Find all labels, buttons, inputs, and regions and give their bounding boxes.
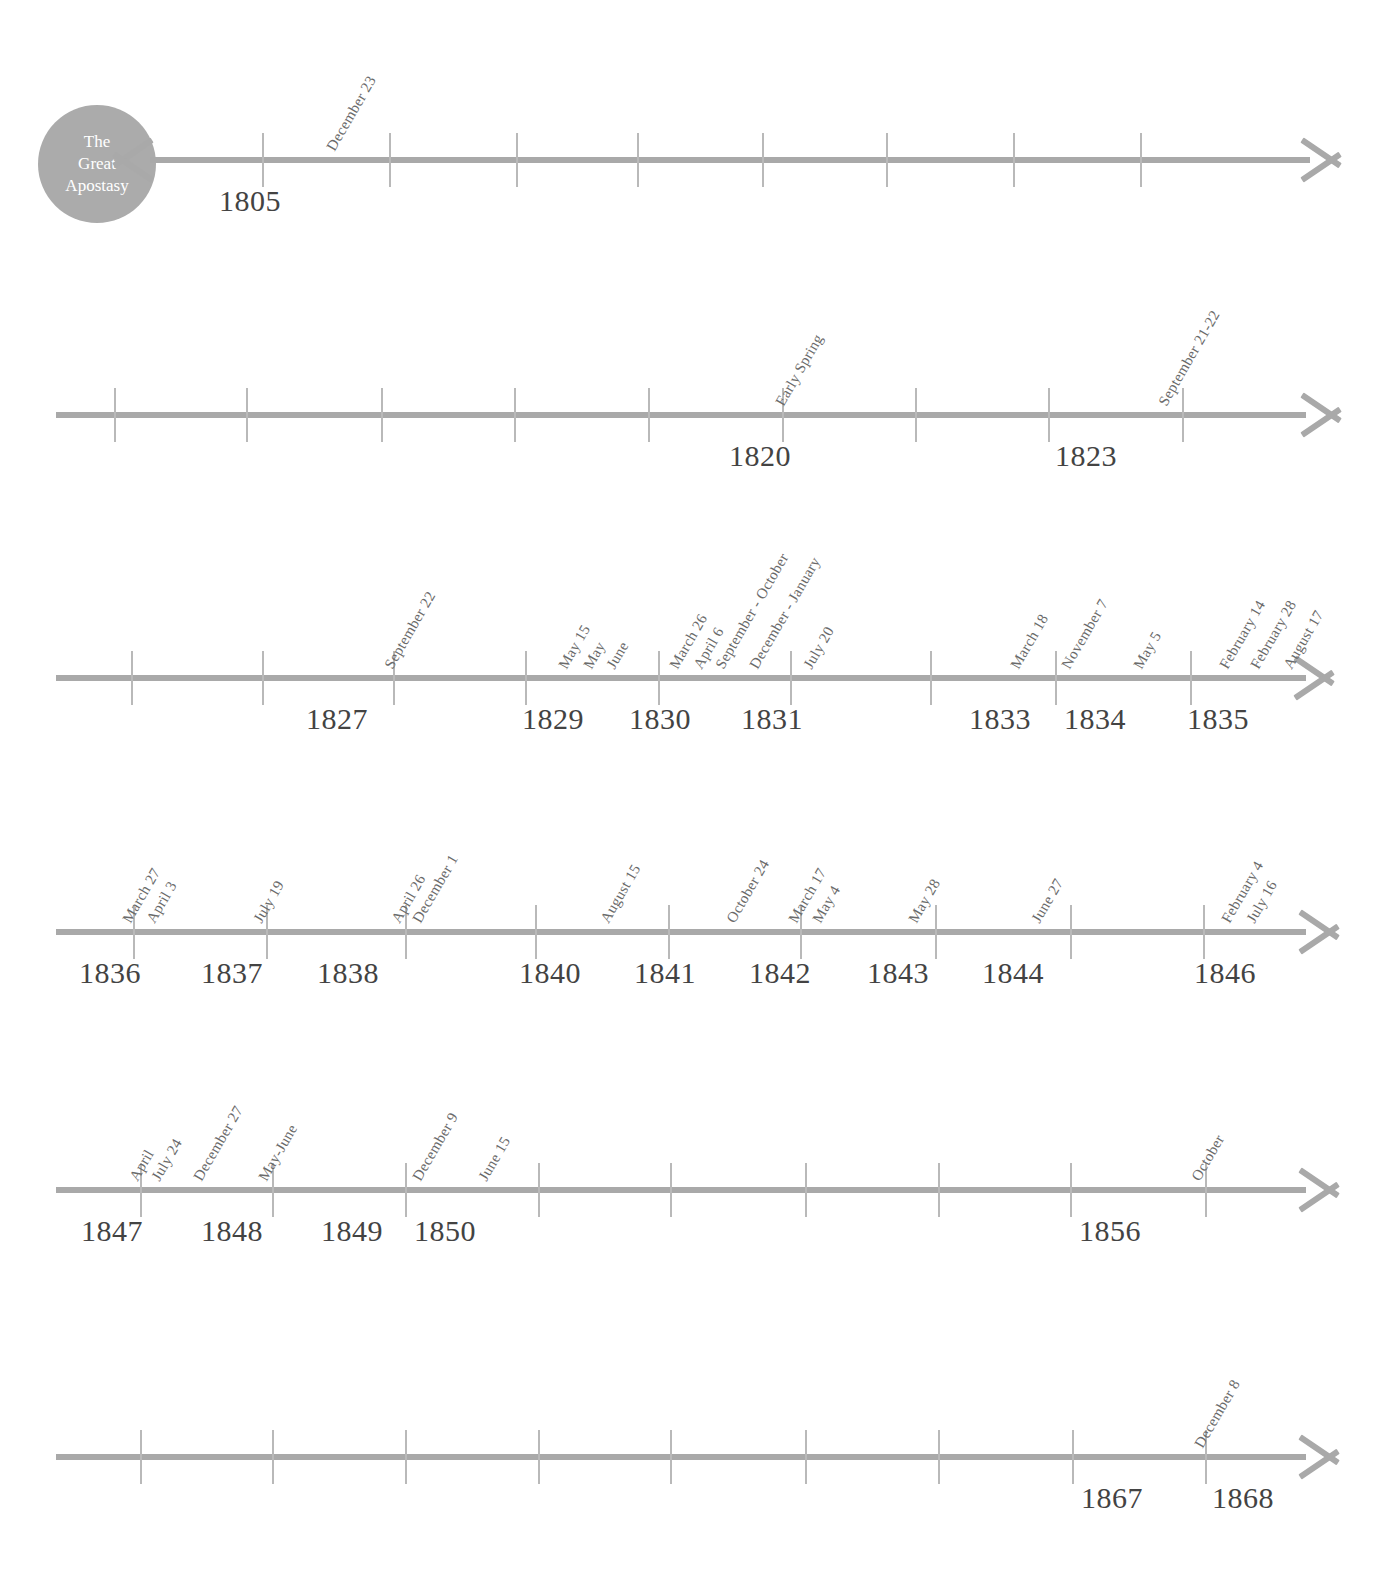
year-label: 1831 — [741, 702, 803, 736]
timeline-axis-line — [150, 157, 1310, 163]
timeline-axis-line — [56, 929, 1306, 935]
arrow-right-icon — [1302, 129, 1346, 191]
timeline-tick — [1070, 905, 1072, 959]
timeline-tick — [114, 388, 116, 442]
event-label: September 22 — [381, 589, 439, 672]
timeline-tick — [514, 388, 516, 442]
timeline-tick — [538, 1163, 540, 1217]
timeline-tick — [670, 1430, 672, 1484]
timeline-tick — [272, 1430, 274, 1484]
timeline-tick — [1070, 1163, 1072, 1217]
year-label: 1850 — [414, 1214, 476, 1248]
year-label: 1847 — [81, 1214, 143, 1248]
year-label: 1842 — [749, 956, 811, 990]
timeline-tick — [805, 1430, 807, 1484]
timeline-tick — [648, 388, 650, 442]
year-label: 1827 — [306, 702, 368, 736]
event-label: December 8 — [1191, 1377, 1244, 1451]
timeline-tick — [790, 651, 792, 705]
year-label: 1841 — [634, 956, 696, 990]
event-label: March 18 — [1007, 611, 1052, 672]
timeline-tick — [381, 388, 383, 442]
timeline-tick — [1182, 388, 1184, 442]
event-label: August 15 — [597, 861, 644, 926]
year-label: 1844 — [982, 956, 1044, 990]
year-label: 1805 — [219, 184, 281, 218]
timeline-tick — [935, 905, 937, 959]
arrow-right-icon — [1300, 901, 1344, 963]
timeline-tick — [668, 905, 670, 959]
timeline-tick — [516, 133, 518, 187]
arrow-right-icon — [1300, 1426, 1344, 1488]
year-label: 1846 — [1194, 956, 1256, 990]
timeline-tick — [1140, 133, 1142, 187]
year-label: 1843 — [867, 956, 929, 990]
event-label: September 21-22 — [1155, 307, 1223, 409]
timeline-tick — [915, 388, 917, 442]
timeline-tick — [246, 388, 248, 442]
timeline-tick — [389, 133, 391, 187]
event-label: July 19 — [250, 878, 288, 926]
year-label: 1820 — [729, 439, 791, 473]
event-label: Early Spring — [772, 331, 827, 409]
timeline-tick — [1048, 388, 1050, 442]
timeline-tick — [886, 133, 888, 187]
timeline-tick — [670, 1163, 672, 1217]
timeline-tick — [938, 1163, 940, 1217]
year-label: 1823 — [1055, 439, 1117, 473]
timeline-tick — [262, 651, 264, 705]
timeline-tick — [805, 1163, 807, 1217]
timeline-axis-line — [56, 675, 1306, 681]
event-label: December 27 — [190, 1103, 247, 1184]
timeline-axis-line — [56, 1187, 1306, 1193]
timeline-tick — [538, 1430, 540, 1484]
arrow-right-icon — [1302, 384, 1346, 446]
timeline-tick — [658, 651, 660, 705]
timeline-tick — [930, 651, 932, 705]
event-label: December 9 — [409, 1110, 462, 1184]
timeline-tick — [1013, 133, 1015, 187]
event-label: June — [603, 639, 632, 672]
event-label: December 23 — [323, 73, 380, 154]
year-label: 1868 — [1212, 1481, 1274, 1515]
event-label: July 20 — [800, 624, 838, 672]
timeline-tick — [535, 905, 537, 959]
year-label: 1833 — [969, 702, 1031, 736]
year-label: 1834 — [1064, 702, 1126, 736]
year-label: 1835 — [1187, 702, 1249, 736]
event-label: May 5 — [1130, 629, 1165, 672]
timeline-tick — [762, 133, 764, 187]
timeline-tick — [262, 133, 264, 187]
arrow-left-icon — [108, 129, 152, 191]
timeline-tick — [405, 1430, 407, 1484]
year-label: 1856 — [1079, 1214, 1141, 1248]
timeline-tick — [1190, 651, 1192, 705]
event-label: May 28 — [905, 876, 944, 926]
year-label: 1848 — [201, 1214, 263, 1248]
timeline-tick — [525, 651, 527, 705]
arrow-right-icon — [1300, 1159, 1344, 1221]
timeline-axis-line — [56, 1454, 1306, 1460]
event-label: October 24 — [723, 857, 773, 926]
year-label: 1837 — [201, 956, 263, 990]
event-label: May-June — [255, 1121, 301, 1184]
year-label: 1840 — [519, 956, 581, 990]
timeline-axis-line — [56, 412, 1306, 418]
year-label: 1830 — [629, 702, 691, 736]
year-label: 1849 — [321, 1214, 383, 1248]
timeline-tick — [405, 1163, 407, 1217]
badge-text-line-1: The — [84, 131, 110, 153]
year-label: 1829 — [522, 702, 584, 736]
year-label: 1838 — [317, 956, 379, 990]
event-label: June 27 — [1028, 876, 1067, 926]
event-label: June 15 — [475, 1134, 514, 1184]
timeline-tick — [637, 133, 639, 187]
timeline-tick — [1203, 905, 1205, 959]
event-label: November 7 — [1058, 596, 1112, 672]
timeline-tick — [1055, 651, 1057, 705]
timeline-tick — [131, 651, 133, 705]
event-label: October — [1188, 1132, 1228, 1184]
timeline-tick — [938, 1430, 940, 1484]
timeline-tick — [140, 1430, 142, 1484]
timeline-tick — [1072, 1430, 1074, 1484]
